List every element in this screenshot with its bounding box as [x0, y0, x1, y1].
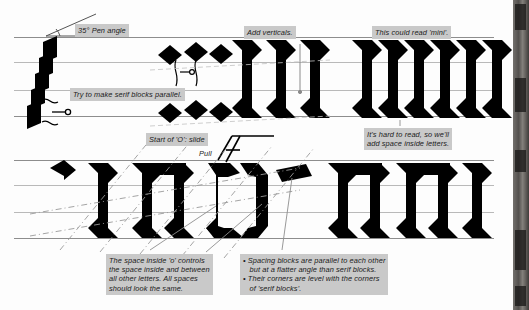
label-spacing-bullets: • Spacing blocks are parallel to each ot…	[240, 254, 388, 295]
pen-nib-pointer-left	[42, 99, 71, 125]
page-gutter-edge	[513, 0, 529, 310]
label-hard-to-read: It's hard to read, so we'll add space in…	[364, 128, 452, 150]
label-pull: Pull	[196, 147, 215, 160]
spacing-block-sample	[276, 164, 312, 182]
serif-diamond-blocks-lower	[158, 100, 233, 123]
construction-guides-bottom	[30, 140, 314, 258]
caption-leader-spacing-bullets	[282, 178, 292, 250]
pen-angle-stair-blocks	[27, 36, 57, 129]
label-space-inside-o: The space inside 'o' controls the space …	[106, 254, 213, 295]
minim-group-mini-bottom	[328, 163, 492, 238]
pen-nib-pointer-diamonds	[175, 60, 197, 86]
calligraphy-worksheet: 35° Pen angle Try to make serif blocks p…	[0, 0, 529, 310]
label-pen-angle: 35° Pen angle	[75, 24, 129, 37]
minim-group-mini-top	[352, 40, 512, 118]
label-add-verticals: Add verticals.	[244, 26, 296, 39]
label-start-of-o-slide: Start of 'O': slide	[146, 133, 208, 146]
minim-group-iii	[232, 40, 330, 118]
add-verticals-leader	[298, 44, 301, 94]
letter-i-bottom	[50, 160, 118, 238]
label-could-read-mini: This could read 'mini'.	[372, 26, 451, 39]
label-serif-blocks-parallel: Try to make serif blocks parallel.	[70, 88, 185, 101]
